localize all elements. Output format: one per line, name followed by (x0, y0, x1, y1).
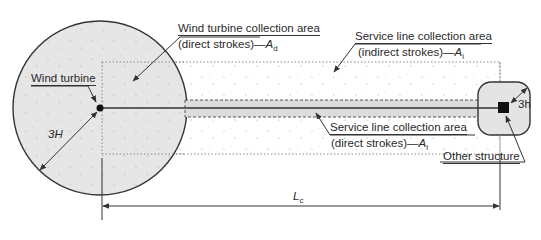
label-wt-area-line1: Wind turbine collection area (178, 22, 320, 36)
sl-direct-subscript: l (426, 143, 428, 152)
radius-3h-text: 3h (518, 98, 531, 110)
wt-area-subscript: d (273, 44, 277, 53)
label-sl-indirect-line2: (indirect strokes)—Ai (358, 46, 464, 60)
sl-direct-prefix: (direct strokes)— (331, 137, 419, 149)
other-structure-icon (498, 102, 509, 113)
label-other-structure: Other structure (443, 150, 520, 164)
label-radius-3H: 3H (48, 128, 63, 141)
label-radius-3h: 3h (518, 98, 531, 111)
label-sl-direct-line2: (direct strokes)—Al (331, 137, 428, 151)
label-wind-turbine: Wind turbine (31, 72, 96, 86)
radius-3H-text: 3H (48, 128, 63, 140)
wind-turbine-icon (97, 105, 104, 112)
label-length-Lc: Lc (293, 190, 303, 204)
label-sl-direct-line1: Service line collection area (330, 121, 467, 135)
sl-indirect-prefix: (indirect strokes)— (358, 46, 455, 58)
sl-indirect-subscript: i (462, 52, 464, 61)
label-wt-area-line2: (direct strokes)—Ad (178, 38, 278, 52)
length-subscript: c (299, 196, 303, 205)
wt-area-prefix: (direct strokes)— (178, 38, 266, 50)
label-sl-indirect-line1: Service line collection area (355, 30, 492, 44)
